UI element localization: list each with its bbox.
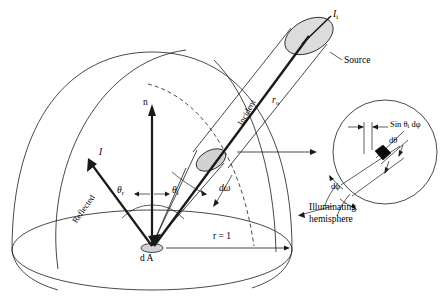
hemisphere-label-line2: hemisphere — [309, 215, 353, 225]
inset-width-arrow-left-head — [358, 125, 364, 130]
hemisphere-meridian-arc — [56, 50, 186, 269]
solid-angle-arc-lower-arrowhead — [213, 199, 219, 207]
hemisphere-base-lower-curve — [12, 250, 58, 290]
theta-r-pointer-arrowhead — [134, 192, 139, 197]
beam-cone-edge-left — [193, 28, 291, 152]
source-leader-line — [330, 52, 342, 60]
distance-label: ro — [272, 96, 279, 106]
solid-angle-patch — [192, 144, 229, 176]
source-label: Source — [344, 56, 370, 66]
solid-angle-label: dω — [219, 184, 230, 194]
surface-normal-arrowhead — [148, 104, 156, 116]
inset-connector-arrowhead — [310, 149, 317, 155]
solid-angle-arc-upper-arrowhead — [201, 190, 207, 196]
inset-height-tick-head — [385, 167, 390, 174]
normal-label: n — [143, 98, 148, 108]
inset-patch-diamond — [375, 145, 391, 160]
area-element-label: d A — [140, 254, 153, 264]
radius-line-arrowhead-right — [284, 246, 290, 251]
reflected-ray — [90, 162, 152, 246]
inset-dtheta-label: dθ — [389, 136, 397, 145]
radius-label: r = 1 — [213, 232, 231, 242]
theta-r-label: θr — [117, 186, 124, 196]
source-radiance-label: Ii — [333, 10, 338, 20]
radiometry-diagram: Ii Source Incident ro n I Reflected θr θ… — [0, 0, 445, 300]
inset-width-arrow-right-head — [372, 125, 378, 130]
incident-ray — [154, 36, 309, 246]
inset-dtheta-bracket-head — [399, 150, 404, 157]
hemisphere-leader-arrowhead — [298, 212, 305, 218]
diagram-canvas — [0, 0, 445, 300]
theta-i-label: θi — [172, 186, 179, 196]
solid-angle-ray-c — [152, 168, 186, 246]
hemisphere-label-line1: Illuminating — [309, 203, 356, 213]
inset-phi-axis-line-2 — [352, 158, 404, 196]
inset-phi-axis-line — [341, 146, 400, 185]
inset-arc-width-label: Sin θi dφ — [390, 120, 421, 130]
theta-i-pointer-arrowhead — [165, 192, 170, 197]
inset-dphi-label: dφ — [331, 182, 340, 191]
hemisphere-rim-right — [252, 250, 292, 288]
reflected-vector-label: I — [99, 148, 102, 158]
